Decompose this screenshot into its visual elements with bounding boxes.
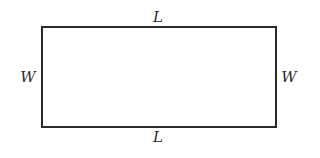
top-length-label: L [153,10,163,25]
left-width-label: W [20,70,35,85]
bottom-length-label: L [153,130,163,145]
rectangle-shape [41,26,277,128]
right-width-label: W [281,70,296,85]
